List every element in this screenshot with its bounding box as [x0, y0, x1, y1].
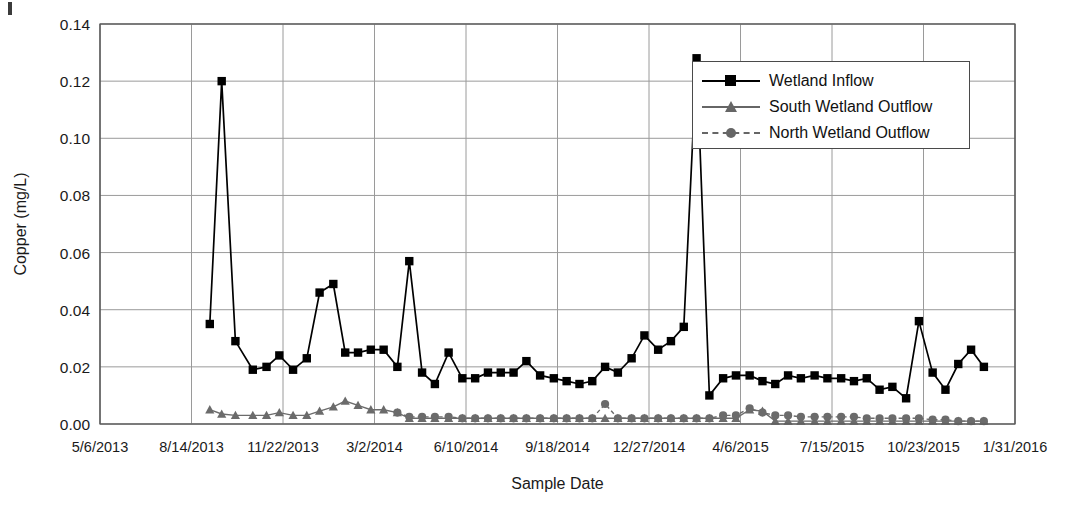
y-tick-label: 0.06 [60, 245, 90, 262]
x-tick-label: 8/14/2013 [159, 439, 224, 455]
x-tick-label: 1/31/2016 [983, 439, 1048, 455]
data-point-marker [329, 402, 338, 410]
data-point-marker [601, 400, 609, 408]
data-point-marker [941, 416, 949, 424]
legend-item-south-wetland-outflow[interactable]: South Wetland Outflow [693, 94, 969, 120]
legend-swatch-square-icon [702, 71, 760, 91]
data-point-marker [850, 377, 858, 385]
x-axis-title: Sample Date [511, 475, 604, 492]
data-point-marker [784, 371, 792, 379]
x-tick-label: 4/6/2015 [712, 439, 768, 455]
data-point-marker [418, 368, 426, 376]
x-tick-label: 7/15/2015 [800, 439, 865, 455]
data-point-marker [837, 374, 845, 382]
data-point-marker [863, 374, 871, 382]
data-point-marker [837, 413, 845, 421]
data-point-marker [745, 371, 753, 379]
data-point-marker [863, 414, 871, 422]
data-point-marker [628, 414, 636, 422]
data-point-marker [354, 348, 362, 356]
y-tick-label: 0.14 [60, 16, 91, 33]
data-point-marker [458, 414, 466, 422]
data-point-marker [522, 357, 530, 365]
data-point-marker [367, 346, 375, 354]
data-point-marker [640, 331, 648, 339]
data-point-marker [289, 366, 297, 374]
data-point-marker [341, 348, 349, 356]
data-point-marker [888, 414, 896, 422]
data-point-marker [217, 77, 225, 85]
y-tick-label: 0.12 [60, 73, 90, 90]
data-point-marker [811, 413, 819, 421]
y-axis-title: Copper (mg/L) [12, 172, 29, 275]
data-point-marker [329, 280, 337, 288]
data-point-marker [509, 414, 517, 422]
data-point-marker [550, 374, 558, 382]
data-point-marker [205, 405, 214, 413]
legend-label-wetland-inflow: Wetland Inflow [760, 73, 874, 89]
data-point-marker [902, 394, 910, 402]
data-point-marker [875, 414, 883, 422]
data-point-marker [431, 380, 439, 388]
data-point-marker [471, 374, 479, 382]
data-point-marker [810, 371, 818, 379]
data-point-marker [563, 414, 571, 422]
legend-item-wetland-inflow[interactable]: Wetland Inflow [693, 68, 969, 94]
data-point-marker [823, 413, 831, 421]
data-point-marker [928, 368, 936, 376]
data-point-marker [444, 348, 452, 356]
data-point-marker [550, 414, 558, 422]
data-point-marker [758, 408, 766, 416]
data-point-marker [562, 377, 570, 385]
data-point-marker [967, 346, 975, 354]
data-point-marker [497, 368, 505, 376]
data-point-marker [654, 414, 662, 422]
data-point-marker [980, 363, 988, 371]
data-point-marker [915, 317, 923, 325]
data-point-marker [484, 368, 492, 376]
data-point-marker [771, 380, 779, 388]
x-tick-label: 6/10/2014 [434, 439, 499, 455]
legend-label-south-wetland-outflow: South Wetland Outflow [760, 99, 932, 115]
data-point-marker [667, 414, 675, 422]
data-point-marker [797, 374, 805, 382]
data-point-marker [640, 414, 648, 422]
data-point-marker [522, 414, 530, 422]
data-point-marker [732, 411, 740, 419]
data-point-marker [758, 377, 766, 385]
data-point-marker [405, 257, 413, 265]
data-point-marker [614, 414, 622, 422]
data-point-marker [418, 413, 426, 421]
data-point-marker [784, 411, 792, 419]
data-point-marker [654, 346, 662, 354]
chart-legend: Wetland Inflow South Wetland Outflow Nor… [692, 61, 970, 149]
y-tick-label: 0.08 [60, 187, 90, 204]
figure-container: 0.000.020.040.060.080.100.120.145/6/2013… [0, 0, 1078, 517]
data-point-marker [471, 414, 479, 422]
data-point-marker [771, 411, 779, 419]
data-point-marker [732, 371, 740, 379]
data-point-marker [902, 414, 910, 422]
data-point-marker [888, 383, 896, 391]
data-point-marker [719, 411, 727, 419]
legend-swatch-triangle-icon [702, 97, 760, 117]
data-point-marker [431, 413, 439, 421]
data-point-marker [536, 414, 544, 422]
data-point-marker [405, 413, 413, 421]
data-point-marker [954, 360, 962, 368]
legend-item-north-wetland-outflow[interactable]: North Wetland Outflow [693, 120, 969, 146]
data-point-marker [680, 414, 688, 422]
data-point-marker [875, 386, 883, 394]
data-point-marker [614, 368, 622, 376]
data-point-marker [536, 371, 544, 379]
data-point-marker [315, 288, 323, 296]
x-tick-label: 12/27/2014 [613, 439, 686, 455]
data-point-marker [458, 374, 466, 382]
data-point-marker [705, 391, 713, 399]
data-point-marker [231, 337, 239, 345]
data-point-marker [719, 374, 727, 382]
data-point-marker [680, 323, 688, 331]
legend-label-north-wetland-outflow: North Wetland Outflow [760, 125, 930, 141]
legend-swatch-circle-icon [702, 123, 760, 143]
data-point-marker [206, 320, 214, 328]
